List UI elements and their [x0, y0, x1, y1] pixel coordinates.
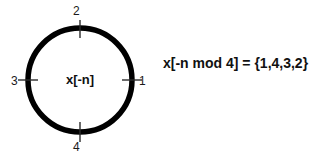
- circular-index-diagram: 2 1 4 3 x[-n]: [0, 0, 160, 163]
- index-label-right: 1: [139, 75, 146, 87]
- center-signal-label: x[-n]: [53, 73, 107, 86]
- figure-root: 2 1 4 3 x[-n] x[-n mod 4] = {1,4,3,2}: [0, 0, 314, 163]
- index-label-bottom: 4: [73, 141, 80, 153]
- index-label-left: 3: [11, 75, 18, 87]
- equation-annotation: x[-n mod 4] = {1,4,3,2}: [163, 54, 308, 72]
- index-label-top: 2: [73, 5, 80, 17]
